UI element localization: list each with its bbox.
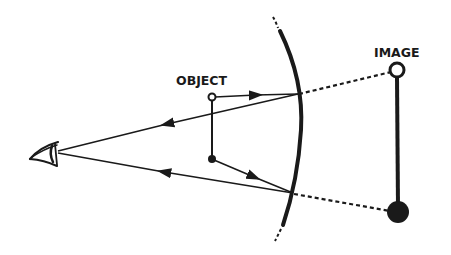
upper-ray-reflected-b xyxy=(58,124,167,151)
convex-mirror xyxy=(273,17,301,241)
image: IMAGE xyxy=(374,45,420,223)
lower-ray xyxy=(58,153,390,211)
eye-icon xyxy=(30,142,58,166)
image-shaft xyxy=(397,77,398,208)
upper-ray-reflected-a xyxy=(167,94,298,124)
lower-ray-incident-a xyxy=(214,160,254,177)
lower-ray-virtual-extension xyxy=(294,194,390,211)
upper-ray-incident-a xyxy=(215,95,256,97)
image-top-circle xyxy=(390,63,404,77)
upper-ray-virtual-extension xyxy=(299,72,391,94)
image-label: IMAGE xyxy=(374,45,420,60)
mirror-ray-diagram: OBJECT IMAGE xyxy=(0,0,451,255)
mirror-solid-arc xyxy=(280,31,301,225)
object-base-dot xyxy=(208,155,216,163)
lower-ray-reflected-a xyxy=(164,172,293,193)
image-base-circle xyxy=(387,201,409,223)
lower-ray-reflected-b xyxy=(58,153,164,172)
object: OBJECT xyxy=(176,73,228,163)
object-label: OBJECT xyxy=(176,73,228,88)
mirror-dashed-top xyxy=(273,17,278,28)
mirror-dashed-bottom xyxy=(275,229,281,241)
object-top-circle xyxy=(209,94,216,101)
